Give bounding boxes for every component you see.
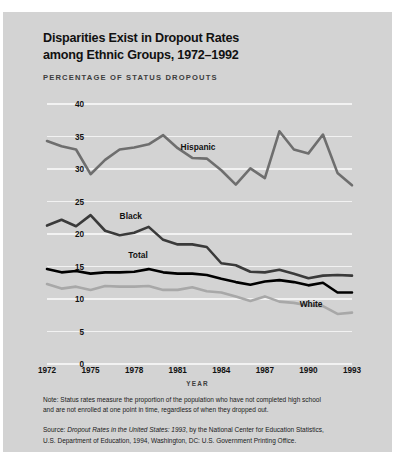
series-line-hispanic [47,131,352,185]
x-tick-1990: 1990 [299,366,317,375]
series-label-total: Total [128,250,147,260]
y-tick-5: 5 [44,327,84,336]
series-label-black: Black [120,211,142,221]
x-axis-ticks: 19721975197819811984198719901993 [47,366,359,379]
x-tick-1978: 1978 [125,366,143,375]
y-tick-40: 40 [44,100,84,109]
series-label-white: White [300,299,323,309]
series-line-black [47,215,352,278]
series-label-hispanic: Hispanic [181,142,216,152]
x-tick-1981: 1981 [169,366,187,375]
plot-area: HispanicBlackTotalWhite [47,104,352,364]
source-rest: , by the National Center for Education S… [186,426,324,433]
x-tick-1987: 1987 [256,366,274,375]
y-tick-20: 20 [44,230,84,239]
source-prefix: Source: [43,426,67,433]
x-tick-1993: 1993 [343,366,361,375]
x-tick-1975: 1975 [81,366,99,375]
x-tick-1984: 1984 [212,366,230,375]
source-title: Dropout Rates in the United States: 1993 [67,426,186,433]
page-title-line1: Disparities Exist in Dropout Rates [43,30,373,47]
x-tick-1972: 1972 [38,366,56,375]
chart-card: Disparities Exist in Dropout Rates among… [3,12,392,452]
chart-subtitle: PERCENTAGE OF STATUS DROPOUTS [43,73,373,82]
y-tick-35: 35 [44,132,84,141]
x-axis-label: YEAR [3,380,392,387]
source-line2: U.S. Department of Education, 1994, Wash… [43,436,363,446]
title-block: Disparities Exist in Dropout Rates among… [43,30,373,82]
footnotes: Note: Status rates measure the proportio… [43,395,363,446]
source-line1: Source: Dropout Rates in the United Stat… [43,425,363,435]
page-title-line2: among Ethnic Groups, 1972–1992 [43,47,373,64]
note-line1: Note: Status rates measure the proportio… [43,395,363,405]
y-tick-25: 25 [44,197,84,206]
y-tick-30: 30 [44,165,84,174]
note-line2: and are not enrolled at one point in tim… [43,405,363,415]
y-tick-15: 15 [44,262,84,271]
y-tick-10: 10 [44,295,84,304]
